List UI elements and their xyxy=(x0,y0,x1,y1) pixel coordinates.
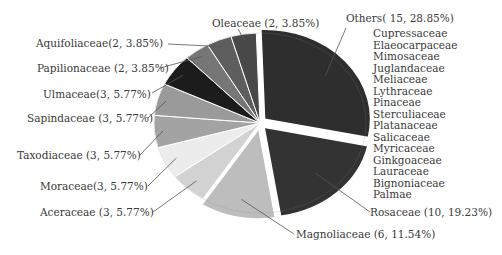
label-aceraceae: Aceraceae (3, 5.77%) xyxy=(39,206,154,218)
others-member: Platanaceae xyxy=(373,119,438,131)
others-member: Sterculiaceae xyxy=(373,108,446,120)
label-moraceae: Moraceae(3, 5.77%) xyxy=(40,180,148,192)
others-member: Juglandaceae xyxy=(372,62,445,74)
others-member: Meliaceae xyxy=(373,73,428,85)
slice-others xyxy=(261,29,371,137)
label-sapindaceae: Sapindaceae (3, 5.77%) xyxy=(27,112,153,124)
label-papilionaceae: Papilionaceae (2, 3.85%) xyxy=(37,62,169,74)
others-members-list: Cupressaceae Elaeocarpaceae Mimosaceae J… xyxy=(372,27,458,200)
others-member: Ginkgoaceae xyxy=(373,154,442,166)
others-member: Bignoniaceae xyxy=(373,177,445,189)
others-member: Palmae xyxy=(373,188,412,200)
label-others: Others( 15, 28.85%) xyxy=(346,12,454,24)
label-taxodiaceae: Taxodiaceae (3, 5.77%) xyxy=(17,149,141,161)
slice-rosaceae xyxy=(264,127,368,216)
others-member: Pinaceae xyxy=(373,96,421,108)
label-rosaceae: Rosaceae (10, 19.23%) xyxy=(370,206,492,218)
others-member: Salicaceae xyxy=(373,131,430,143)
others-member: Myricaceae xyxy=(373,142,435,154)
label-oleaceae: Oleaceae (2, 3.85%) xyxy=(212,17,319,29)
others-member: Elaeocarpaceae xyxy=(373,39,458,51)
leader-line xyxy=(153,181,196,212)
others-member: Lythraceae xyxy=(373,85,433,97)
others-member: Cupressaceae xyxy=(373,27,447,39)
others-member: Mimosaceae xyxy=(373,50,440,62)
label-magnoliaceae: Magnoliaceae (6, 11.54%) xyxy=(296,228,435,240)
label-ulmaceae: Ulmaceae(3, 5.77%) xyxy=(43,88,151,100)
others-member: Lauraceae xyxy=(373,165,429,177)
pie-chart: Oleaceae (2, 3.85%) Aquifoliaceae(2, 3.8… xyxy=(0,0,502,255)
pie-slices xyxy=(154,29,371,219)
label-aquifoliaceae: Aquifoliaceae(2, 3.85%) xyxy=(35,37,163,49)
